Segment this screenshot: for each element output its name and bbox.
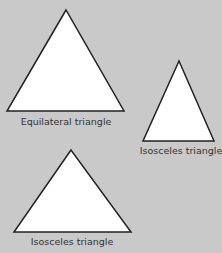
- isosceles-triangle-right: [143, 61, 214, 141]
- isosceles-triangle-right-label: Isosceles triangle: [140, 145, 222, 156]
- isosceles-triangle-bottom-label: Isosceles triangle: [31, 236, 114, 247]
- equilateral-triangle: [7, 10, 124, 111]
- isosceles-triangle-bottom: [14, 150, 131, 232]
- equilateral-triangle-label: Equilateral triangle: [21, 116, 112, 127]
